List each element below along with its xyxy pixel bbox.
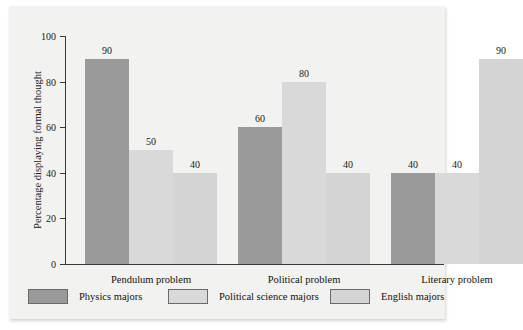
legend-item-english-majors: English majors — [330, 286, 444, 306]
y-tick-40: 40 — [60, 173, 65, 174]
bar-rect — [85, 59, 129, 264]
bar-value-label: 40 — [408, 160, 418, 170]
bar-rect — [479, 59, 523, 264]
bar-value-label: 50 — [146, 137, 156, 147]
bar-pendulum-physics: 90 — [85, 35, 129, 264]
x-category-label-pendulum: Pendulum problem — [111, 274, 191, 285]
bar-rect — [129, 150, 173, 264]
bar-political-polsci: 80 — [282, 35, 326, 264]
legend-item-political-science-majors: Political science majors — [168, 286, 319, 306]
bar-literary-polsci: 40 — [435, 35, 479, 264]
bar-rect — [282, 82, 326, 264]
legend-swatch-icon — [168, 289, 208, 304]
bar-value-label: 40 — [190, 160, 200, 170]
y-tick-0: 0 — [60, 264, 65, 265]
y-tick-20: 20 — [60, 218, 65, 219]
bar-political-physics: 60 — [238, 35, 282, 264]
y-tick-label-60: 60 — [46, 123, 56, 133]
x-axis-line — [65, 264, 444, 265]
y-tick-label-20: 20 — [46, 214, 56, 224]
bar-value-label: 80 — [299, 69, 309, 79]
bar-pendulum-english: 40 — [173, 35, 217, 264]
y-tick-label-80: 80 — [46, 78, 56, 88]
legend-swatch-icon — [330, 289, 370, 304]
bar-political-english: 40 — [326, 35, 370, 264]
y-axis-label: Percentage displaying formal thought — [31, 36, 45, 264]
x-category-label-literary: Literary problem — [421, 274, 492, 285]
y-tick-100: 100 — [60, 36, 65, 37]
y-tick-label-0: 0 — [51, 260, 56, 270]
legend-label: English majors — [381, 291, 444, 302]
bar-value-label: 90 — [496, 46, 506, 56]
bar-value-label: 40 — [452, 160, 462, 170]
bar-rect — [238, 127, 282, 264]
bar-value-label: 60 — [255, 114, 265, 124]
y-tick-80: 80 — [60, 82, 65, 83]
bar-literary-physics: 40 — [391, 35, 435, 264]
chart-legend: Physics majors Political science majors … — [0, 286, 454, 308]
y-tick-60: 60 — [60, 127, 65, 128]
bar-literary-english: 90 — [479, 35, 523, 264]
bar-rect — [326, 173, 370, 264]
y-tick-label-40: 40 — [46, 169, 56, 179]
y-axis-line — [65, 36, 66, 265]
chart-panel: Percentage displaying formal thought 0 2… — [9, 6, 445, 319]
legend-label: Physics majors — [79, 291, 142, 302]
bar-value-label: 40 — [343, 160, 353, 170]
bar-rect — [173, 173, 217, 264]
bar-value-label: 90 — [102, 46, 112, 56]
bar-rect — [435, 173, 479, 264]
bar-pendulum-polsci: 50 — [129, 35, 173, 264]
bar-rect — [391, 173, 435, 264]
y-tick-label-100: 100 — [41, 32, 56, 42]
plot-area: 0 20 40 60 80 100 90 — [65, 36, 443, 264]
legend-label: Political science majors — [219, 291, 319, 302]
x-category-label-political: Political problem — [268, 274, 341, 285]
legend-item-physics-majors: Physics majors — [28, 286, 142, 306]
legend-swatch-icon — [28, 289, 68, 304]
